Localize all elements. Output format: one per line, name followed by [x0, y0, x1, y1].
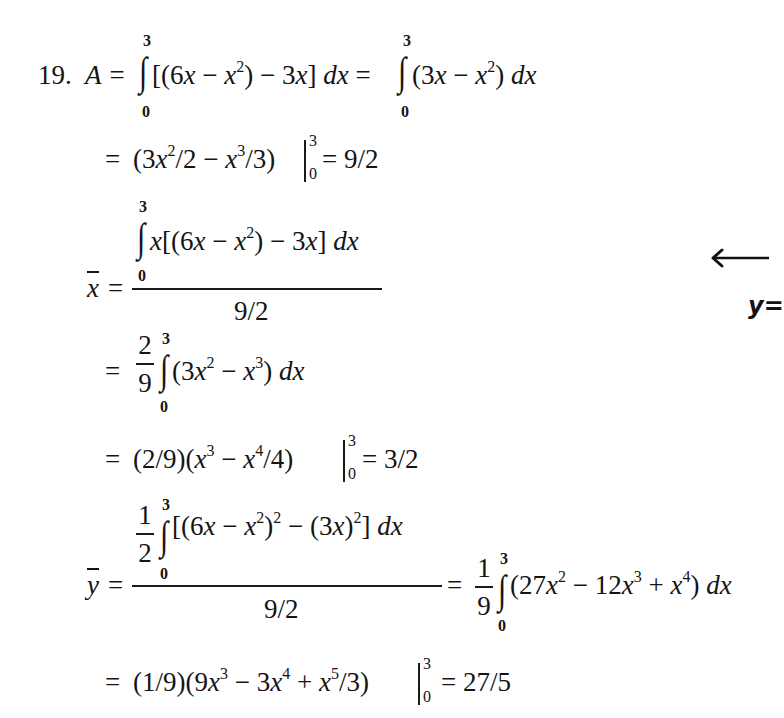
integral-sign-icon: ∫	[139, 52, 147, 92]
integral-sign-icon: ∫	[160, 516, 168, 556]
upper-limit: 3	[423, 655, 431, 673]
upper-limit: 3	[162, 496, 170, 514]
upper-limit: 3	[162, 330, 170, 348]
ybar-result: = 27/5	[441, 669, 511, 696]
equals-sign: =	[108, 572, 123, 599]
xbar-numerator: x[(6x − x2) − 3x] dx	[150, 228, 359, 255]
lower-limit: 0	[160, 398, 168, 416]
lower-limit: 0	[309, 165, 317, 183]
integral-sign-icon: ∫	[160, 350, 168, 390]
left-arrow-icon	[710, 248, 769, 268]
ybar-integrand: (27x2 − 12x3 + x4) dx	[510, 572, 732, 599]
ybar-antiderivative: (1/9)(9x3 − 3x4 + x5/3)	[133, 669, 369, 696]
equals-sign: =	[105, 669, 120, 696]
xbar-denominator: 9/2	[234, 298, 269, 325]
fraction-bar	[132, 585, 442, 587]
area-integrand-1: [(6x − x2) − 3x] dx =	[152, 62, 371, 89]
xbar-antiderivative: (2/9)(x3 − x4/4)	[133, 446, 293, 473]
integral-sign-icon: ∫	[137, 218, 145, 258]
upper-limit: 3	[139, 198, 147, 216]
half-fraction: 1 2	[136, 502, 154, 567]
equals-sign: =	[105, 446, 120, 473]
xbar-symbol: x	[87, 275, 99, 302]
handwritten-y-label: y=	[748, 292, 784, 320]
lower-limit: 0	[138, 267, 146, 285]
area-lhs: A =	[85, 62, 126, 89]
lower-limit: 0	[423, 688, 431, 706]
equals-sign: =	[447, 572, 462, 599]
equals-sign: =	[105, 358, 120, 385]
evaluation-bar	[304, 140, 306, 182]
upper-limit: 3	[403, 32, 411, 50]
evaluation-bar	[343, 440, 345, 482]
coefficient-fraction: 2 9	[136, 332, 154, 397]
upper-limit: 3	[500, 550, 508, 568]
upper-limit: 3	[348, 432, 356, 450]
xbar-result: = 3/2	[362, 446, 418, 473]
lower-limit: 0	[498, 617, 506, 635]
upper-limit: 3	[143, 32, 151, 50]
integral-sign-icon: ∫	[398, 52, 406, 92]
ybar-numerator: [(6x − x2)2 − (3x)2] dx	[172, 513, 403, 540]
lower-limit: 0	[401, 103, 409, 121]
ybar-symbol: y	[87, 572, 99, 599]
antiderivative: (3x2/2 − x3/3)	[133, 146, 275, 173]
lower-limit: 0	[160, 565, 168, 583]
problem-number: 19.	[38, 62, 72, 89]
upper-limit: 3	[309, 132, 317, 150]
lower-limit: 0	[348, 465, 356, 483]
ybar-denominator: 9/2	[264, 596, 299, 623]
fraction-bar	[132, 288, 382, 290]
lower-limit: 0	[142, 103, 150, 121]
evaluation-bar	[418, 663, 420, 705]
xbar-integrand: (3x2 − x3) dx	[172, 358, 304, 385]
area-integrand-2: (3x − x2) dx	[412, 62, 536, 89]
integral-sign-icon: ∫	[498, 570, 506, 610]
ninth-fraction: 1 9	[475, 555, 493, 620]
equals-sign: =	[105, 146, 120, 173]
area-result: = 9/2	[322, 146, 378, 173]
equals-sign: =	[108, 275, 123, 302]
